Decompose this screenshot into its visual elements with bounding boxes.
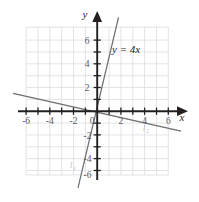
y-axis-label: y (82, 8, 88, 20)
y-tick-label: 4 (85, 59, 90, 69)
line-label-l1: l 1 (70, 161, 76, 171)
y-tick-label: -6 (84, 170, 92, 180)
x-tick-label: 6 (166, 116, 171, 126)
x-axis-label: x (179, 111, 185, 123)
coordinate-plane-graph: -6 -4 -2 2 4 6 0 6 4 2 -2 -4 -6 x y y = … (0, 0, 199, 202)
x-tick-label: -4 (46, 116, 54, 126)
y-axis (92, 11, 102, 180)
graph-svg: -6 -4 -2 2 4 6 0 6 4 2 -2 -4 -6 x y y = … (0, 0, 199, 202)
x-tick-label: -6 (22, 116, 30, 126)
line-label-l2-subscript: 2 (146, 128, 149, 134)
origin-label: 0 (90, 116, 95, 126)
y-axis-arrow-icon (92, 11, 102, 22)
y-tick-label: -2 (84, 131, 92, 141)
y-tick-label: -4 (84, 154, 92, 164)
x-axis (18, 106, 188, 116)
line-label-l1-subscript: 1 (73, 165, 76, 171)
x-tick-label: -2 (70, 116, 78, 126)
x-tick-label: 2 (119, 116, 124, 126)
y-tick-label: 6 (85, 36, 90, 46)
equation-annotation: y = 4x (111, 43, 140, 55)
y-tick-label: 2 (85, 83, 90, 93)
y-tick-labels: 6 4 2 -2 -4 -6 (84, 36, 92, 180)
